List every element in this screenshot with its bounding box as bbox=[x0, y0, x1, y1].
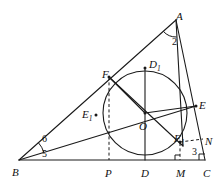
vertex-dot-e bbox=[195, 105, 198, 108]
point-label-text: B bbox=[12, 166, 19, 178]
angle-6-at-B: 6 bbox=[42, 134, 47, 144]
angle-5-at-B: 5 bbox=[42, 149, 47, 159]
point-label-d: D bbox=[141, 168, 149, 179]
point-label-text: D bbox=[149, 58, 157, 70]
point-label-text: F bbox=[102, 68, 109, 80]
point-label-d1: D1 bbox=[149, 59, 161, 73]
point-label-text: E bbox=[82, 108, 89, 120]
geometry-figure: ABCODD1EE1FF1MNP 2356 bbox=[0, 0, 224, 187]
radius-O-to-F bbox=[109, 77, 145, 113]
vertex-dot-d1 bbox=[144, 67, 147, 70]
vertex-dot-e1 bbox=[95, 114, 98, 117]
point-label-text: N bbox=[205, 135, 212, 147]
point-label-o: O bbox=[139, 121, 147, 132]
point-label-text: F bbox=[174, 132, 181, 144]
point-label-text: C bbox=[203, 167, 210, 179]
angle-2-at-A: 2 bbox=[172, 37, 177, 47]
point-label-subscript: 1 bbox=[89, 114, 93, 123]
point-label-e1: E1 bbox=[82, 109, 92, 123]
point-label-c: C bbox=[203, 168, 210, 179]
point-label-subscript: 1 bbox=[181, 138, 185, 147]
point-label-text: D bbox=[141, 167, 149, 179]
point-label-text: M bbox=[176, 167, 185, 179]
point-label-a: A bbox=[176, 11, 183, 22]
vertex-dot-o bbox=[144, 112, 147, 115]
point-label-b: B bbox=[12, 167, 19, 178]
geometry-canvas bbox=[0, 0, 224, 187]
point-label-e: E bbox=[199, 100, 206, 111]
point-label-text: O bbox=[139, 120, 147, 132]
right-angle-mark-M bbox=[175, 155, 180, 160]
point-label-p: P bbox=[105, 168, 112, 179]
point-label-text: P bbox=[105, 167, 112, 179]
point-label-subscript: 1 bbox=[157, 64, 161, 73]
point-label-m: M bbox=[176, 168, 185, 179]
point-label-f: F bbox=[102, 69, 109, 80]
point-label-f1: F1 bbox=[174, 133, 184, 147]
radius-O-to-E bbox=[145, 106, 196, 113]
angle-3-at-C: 3 bbox=[192, 147, 197, 157]
point-label-text: A bbox=[176, 10, 183, 22]
point-label-text: E bbox=[199, 99, 206, 111]
point-label-n: N bbox=[205, 136, 212, 147]
